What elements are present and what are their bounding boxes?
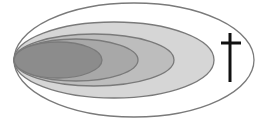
nested-ellipses-diagram — [0, 0, 269, 124]
ellipse-group — [14, 3, 254, 117]
level-4-ellipse — [14, 42, 102, 78]
